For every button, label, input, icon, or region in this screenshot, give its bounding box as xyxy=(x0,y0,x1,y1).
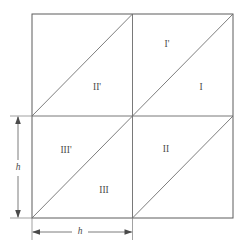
dimension-arrow-down-icon xyxy=(15,210,21,218)
region-label-II: II xyxy=(163,144,169,154)
dimension-arrow-right-icon xyxy=(125,229,133,235)
diagram-root: I' I II' II III' III h h xyxy=(0,0,247,251)
region-label-II-prime: II' xyxy=(93,82,101,92)
dimension-label-h-vertical: h xyxy=(16,162,21,172)
diagonal-top-right-quadrant xyxy=(133,14,234,116)
dimension-arrow-left-icon xyxy=(32,229,40,235)
region-label-III-prime: III' xyxy=(60,145,71,155)
region-label-I: I xyxy=(199,82,202,92)
diagonal-bottom-right-quadrant xyxy=(133,116,234,218)
region-label-III: III xyxy=(99,185,109,195)
diagonal-bottom-left-quadrant xyxy=(32,116,133,218)
dimension-label-h-horizontal: h xyxy=(78,226,83,236)
square-subdivision-figure: I' I II' II III' III h h xyxy=(0,0,247,251)
region-label-I-prime: I' xyxy=(165,39,170,49)
dimension-arrow-up-icon xyxy=(15,116,21,124)
diagonal-top-left-quadrant xyxy=(32,14,133,116)
